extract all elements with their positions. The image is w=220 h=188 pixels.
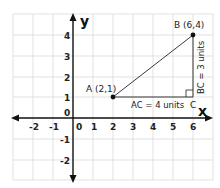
y-tick: 2 [64, 73, 70, 83]
y-axis-label: y [80, 13, 89, 29]
x-tick: -2 [29, 122, 39, 132]
y-tick: 1 [64, 93, 70, 103]
x-tick: -1 [49, 122, 59, 132]
y-tick-labels: -2 -1 0 1 2 3 4 [60, 31, 70, 166]
point-b [191, 33, 196, 38]
right-angle-marker [186, 90, 193, 97]
x-axis [11, 115, 213, 122]
y-tick: 4 [64, 31, 70, 41]
x-axis-label: x [198, 103, 207, 119]
x-tick: 3 [130, 122, 136, 132]
x-tick: 6 [190, 122, 196, 132]
point-c-label: C [190, 100, 196, 110]
ac-length-label: AC = 4 units [131, 100, 185, 110]
point-b-label: B (6,4) [174, 20, 204, 30]
y-tick: -2 [60, 156, 70, 166]
x-tick: 0 [76, 122, 82, 132]
y-axis [70, 13, 77, 183]
point-a [111, 95, 116, 100]
y-axis-down-arrow-icon [70, 175, 77, 183]
y-tick: -1 [60, 135, 70, 145]
x-axis-left-arrow-icon [11, 115, 19, 122]
x-tick-labels: -2 -1 0 1 2 3 4 5 6 [29, 122, 196, 132]
y-tick: 0 [64, 108, 70, 118]
x-tick: 2 [110, 122, 116, 132]
point-a-label: A (2,1) [86, 84, 116, 94]
bc-length-label: BC = 3 units [196, 40, 206, 94]
y-tick: 3 [64, 52, 70, 62]
coordinate-plane: y x -2 -1 0 1 2 3 4 5 6 -2 -1 0 1 2 3 4 … [0, 0, 220, 188]
x-tick: 4 [150, 122, 156, 132]
x-tick: 5 [170, 122, 176, 132]
x-tick: 1 [91, 122, 97, 132]
